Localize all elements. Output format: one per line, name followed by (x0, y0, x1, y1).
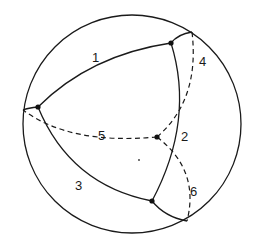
diagram-canvas: 1 2 3 4 5 6 (0, 0, 258, 249)
edge-1 (38, 43, 171, 107)
label-edge-2: 2 (181, 129, 188, 144)
edge-4 (157, 32, 193, 137)
edge-3 (38, 107, 152, 201)
sphere-outline (23, 15, 241, 233)
edge-2 (152, 43, 180, 201)
sphere-diagram: 1 2 3 4 5 6 (0, 0, 258, 249)
edge-top-to-rim (171, 32, 192, 43)
center-mark (138, 159, 140, 161)
label-edge-6: 6 (190, 184, 197, 199)
edge-bottom-to-rim (152, 201, 187, 221)
label-edge-4: 4 (199, 54, 206, 69)
vertex-left (35, 104, 40, 109)
label-edge-5: 5 (98, 128, 105, 143)
vertex-bottom (149, 198, 154, 203)
label-edge-1: 1 (92, 50, 99, 65)
label-edge-3: 3 (75, 178, 82, 193)
vertex-top (168, 40, 173, 45)
edge-5 (23, 110, 157, 138)
vertex-back (154, 134, 159, 139)
